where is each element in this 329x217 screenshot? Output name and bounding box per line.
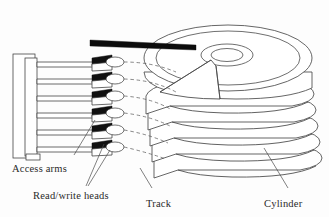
label-cylinder: Cylinder [264, 198, 303, 209]
head-slider-2 [92, 72, 124, 88]
label-read-write-heads: Read/write heads [33, 190, 109, 201]
label-track: Track [146, 198, 172, 209]
hdd-diagram: Access arms Read/write heads Track Cylin… [0, 0, 329, 217]
hdd-illustration: Access arms Read/write heads Track Cylin… [0, 0, 329, 217]
head-slider-1 [92, 55, 124, 71]
head-slider-5 [92, 123, 124, 139]
leader-track [140, 168, 152, 188]
platter-1-top [144, 25, 312, 99]
actuator-assembly [13, 54, 94, 160]
head-slider-3 [92, 89, 124, 105]
label-access-arms: Access arms [12, 163, 67, 174]
head-slider-4 [92, 106, 124, 122]
access-arms [37, 62, 94, 152]
read-write-heads [92, 55, 124, 156]
